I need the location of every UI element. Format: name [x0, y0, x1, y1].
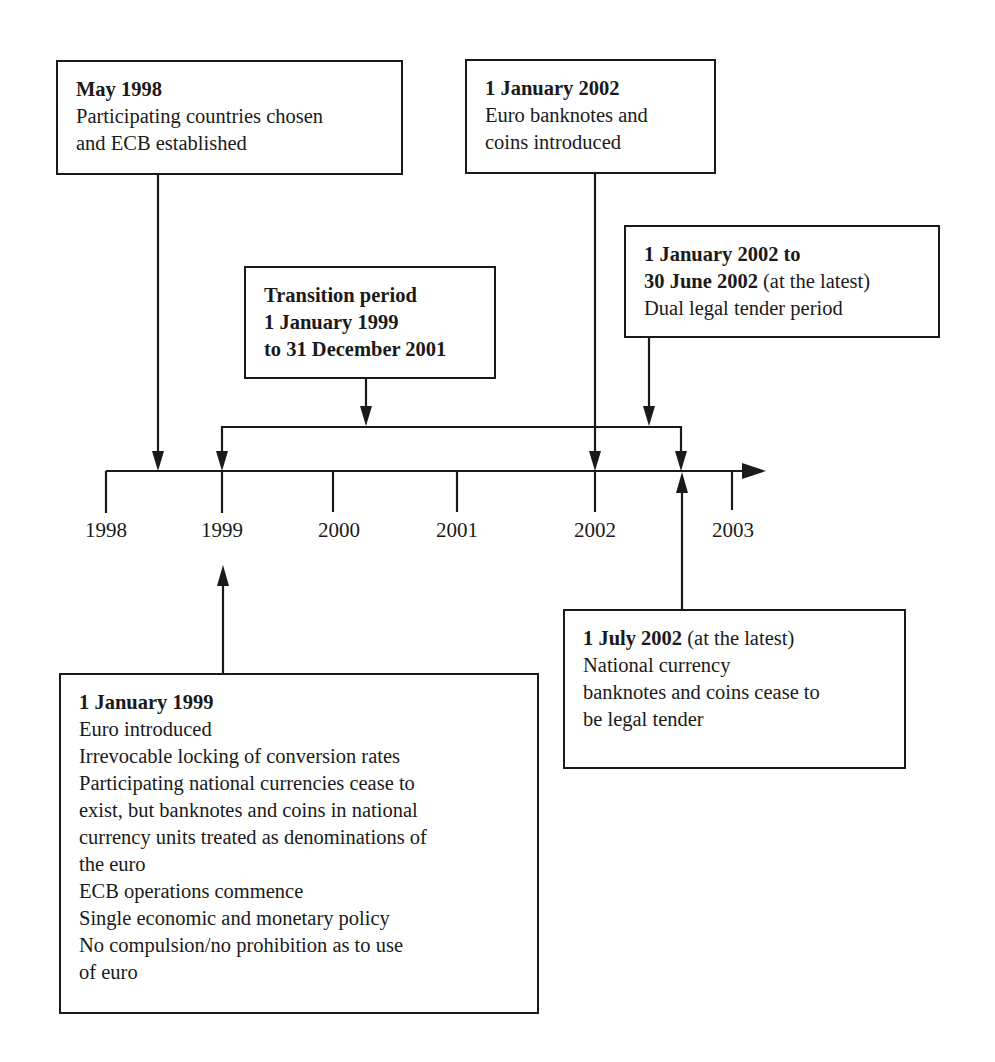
- arrow-down-icon: [216, 451, 228, 471]
- year-label-1998: 1998: [85, 518, 127, 543]
- event-text: be legal tender: [583, 706, 904, 733]
- event-text: the euro: [79, 851, 537, 878]
- event-box-jan-1999: 1 January 1999 Euro introduced Irrevocab…: [59, 673, 539, 1014]
- arrow-up-icon: [217, 565, 229, 586]
- event-text: No compulsion/no prohibition as to use: [79, 932, 537, 959]
- event-text: of euro: [79, 959, 537, 986]
- event-heading: May 1998: [76, 76, 401, 103]
- event-text: Participating countries chosen: [76, 103, 401, 130]
- arrow-down-icon: [360, 406, 372, 426]
- event-text: currency units treated as denominations …: [79, 824, 537, 851]
- event-text: banknotes and coins cease to: [583, 679, 904, 706]
- transition-bracket: [222, 427, 681, 452]
- year-label-1999: 1999: [201, 518, 243, 543]
- event-text: Participating national currencies cease …: [79, 770, 537, 797]
- event-heading-line2: 30 June 2002 (at the latest): [644, 268, 938, 295]
- event-text: coins introduced: [485, 129, 714, 156]
- year-label-2001: 2001: [436, 518, 478, 543]
- event-text: Single economic and monetary policy: [79, 905, 537, 932]
- event-heading-date: 30 June 2002: [644, 270, 758, 292]
- event-text: exist, but banknotes and coins in nation…: [79, 797, 537, 824]
- event-heading-qualifier: (at the latest): [682, 627, 794, 649]
- event-text: ECB operations commence: [79, 878, 537, 905]
- event-heading-qualifier: (at the latest): [758, 270, 870, 292]
- axis-arrow-icon: [742, 463, 766, 479]
- arrow-down-icon: [589, 451, 601, 471]
- event-text: Irrevocable locking of conversion rates: [79, 743, 537, 770]
- event-box-transition-period: Transition period 1 January 1999 to 31 D…: [244, 266, 496, 379]
- event-box-jul-2002: 1 July 2002 (at the latest) National cur…: [563, 609, 906, 769]
- arrow-down-icon: [675, 451, 687, 471]
- event-text: Euro banknotes and: [485, 102, 714, 129]
- arrow-up-icon: [676, 472, 688, 493]
- event-text: National currency: [583, 652, 904, 679]
- event-heading: 1 January 2002: [485, 75, 714, 102]
- event-box-dual-legal-tender: 1 January 2002 to 30 June 2002 (at the l…: [624, 225, 940, 338]
- year-label-2003: 2003: [712, 518, 754, 543]
- event-heading: 1 January 2002 to: [644, 241, 938, 268]
- event-heading-line: 1 July 2002 (at the latest): [583, 625, 904, 652]
- event-heading: to 31 December 2001: [264, 336, 494, 363]
- event-heading: 1 January 1999: [79, 689, 537, 716]
- event-heading: 1 January 1999: [264, 309, 494, 336]
- arrow-down-icon: [152, 451, 164, 471]
- event-text: Euro introduced: [79, 716, 537, 743]
- event-heading-date: 1 July 2002: [583, 627, 682, 649]
- event-box-may-1998: May 1998 Participating countries chosen …: [56, 60, 403, 175]
- arrow-down-icon: [643, 406, 655, 426]
- year-label-2000: 2000: [318, 518, 360, 543]
- event-text: and ECB established: [76, 130, 401, 157]
- event-box-jan-2002: 1 January 2002 Euro banknotes and coins …: [465, 59, 716, 174]
- year-label-2002: 2002: [574, 518, 616, 543]
- event-text: Dual legal tender period: [644, 295, 938, 322]
- event-heading: Transition period: [264, 282, 494, 309]
